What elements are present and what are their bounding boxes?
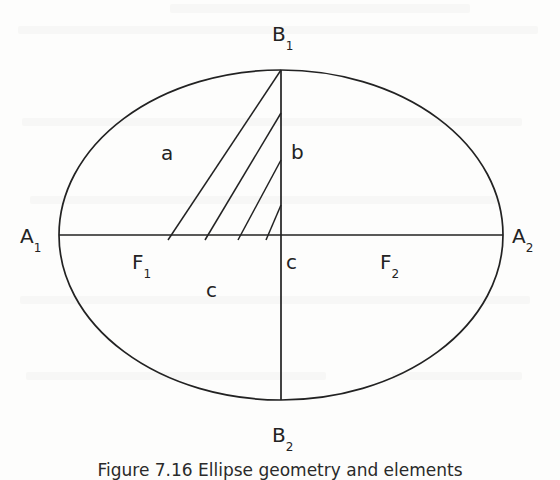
label-focus-right: F2 <box>380 252 399 276</box>
label-vertex-right-base: A <box>512 224 526 248</box>
hatch-line <box>168 70 281 240</box>
hatch-line <box>238 160 281 240</box>
label-semi-minor-b: b <box>291 142 304 162</box>
label-vertex-left: A1 <box>20 226 41 250</box>
hatch-line <box>205 113 281 240</box>
label-vertex-left-sub: 1 <box>34 241 42 255</box>
label-vertex-top: B1 <box>272 24 293 48</box>
label-vertex-right-sub: 2 <box>526 241 534 255</box>
label-vertex-top-base: B <box>272 22 286 46</box>
label-focus-left-sub: 1 <box>144 267 152 281</box>
label-focus-left-base: F <box>132 250 144 274</box>
label-c-upper: c <box>286 252 297 272</box>
label-semi-major-a: a <box>161 143 173 163</box>
figure-caption: Figure 7.16 Ellipse geometry and element… <box>0 460 560 480</box>
label-vertex-bottom-base: B <box>272 423 286 447</box>
label-vertex-right: A2 <box>512 226 533 250</box>
label-focus-right-sub: 2 <box>392 267 400 281</box>
hatch-lines <box>168 70 281 240</box>
label-vertex-bottom: B2 <box>272 425 293 449</box>
label-vertex-top-sub: 1 <box>286 39 294 53</box>
label-vertex-left-base: A <box>20 224 34 248</box>
label-vertex-bottom-sub: 2 <box>286 440 294 454</box>
label-focus-left: F1 <box>132 252 151 276</box>
label-focus-right-base: F <box>380 250 392 274</box>
label-c-lower: c <box>206 280 217 300</box>
